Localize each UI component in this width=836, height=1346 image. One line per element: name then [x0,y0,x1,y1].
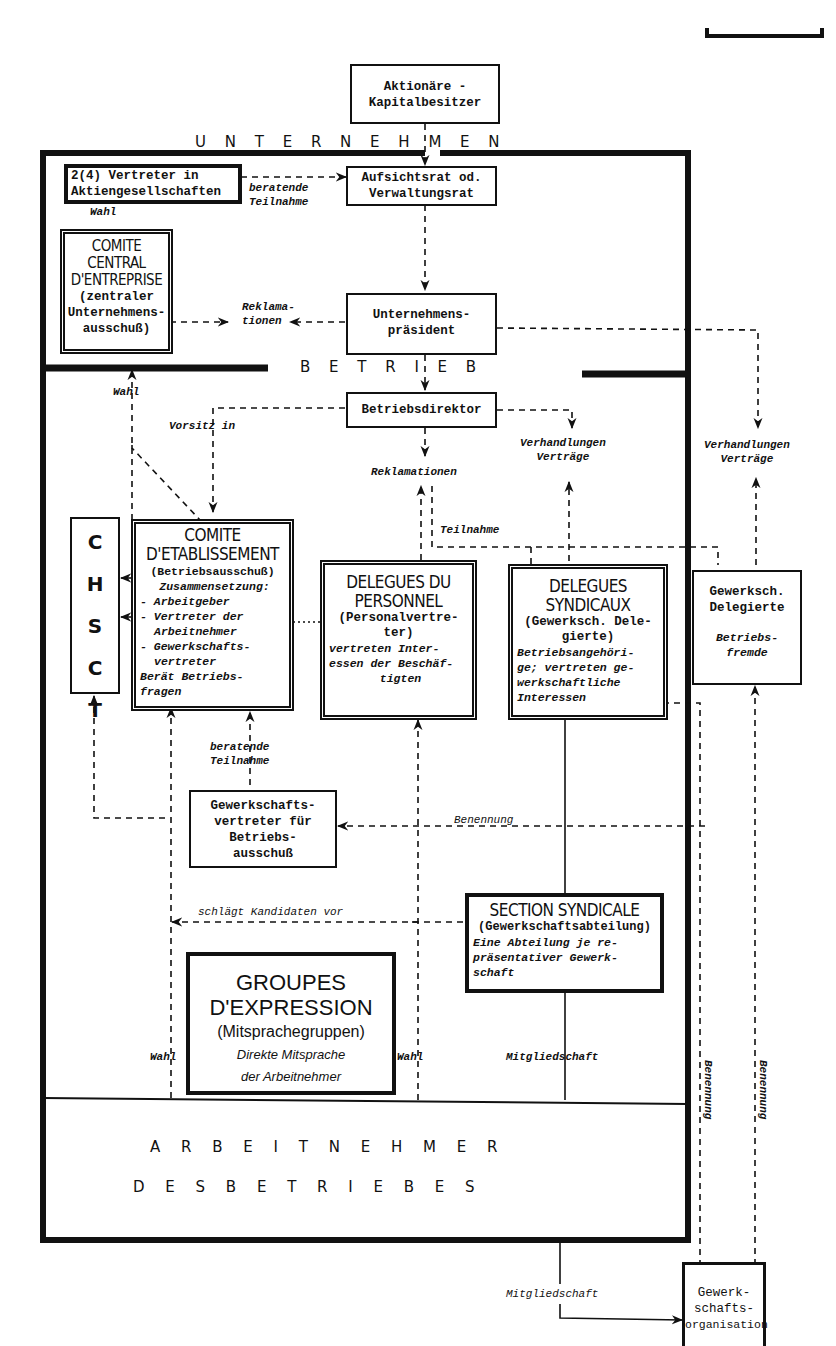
label-verhandlungen-right: Verhandlungen Verträge [704,438,790,466]
box-aufsichtsrat: Aufsichtsrat od. Verwaltungsrat [346,166,497,206]
label-verhandlungen-mid: Verhandlungen Verträge [520,436,606,464]
box-groupes-expression: GROUPES D'EXPRESSION (Mitsprachegruppen)… [186,952,396,1095]
label-teilnahme: Teilnahme [440,523,499,537]
arbeitnehmer-divider [43,1098,688,1104]
label-wahl-ge-left: Wahl [150,1050,176,1064]
box-delegues-syndicaux: DELEGUES SYNDICAUX (Gewerksch. Dele- gie… [508,564,668,720]
box-vertreter-ag: 2(4) Vertreter in Aktiengesellschaften [64,164,242,204]
label-mitgliedschaft-go: Mitgliedschaft [506,1287,598,1301]
label-schlaegt-kandidaten-vor: schlägt Kandidaten vor [198,905,343,919]
box-aktionaere: Aktionäre - Kapitalbesitzer [350,64,500,124]
label-beratende-teilnahme-bottom: beratende Teilnahme [210,740,269,768]
label-unternehmen: U N T E R N E H M E N [195,133,507,151]
label-betrieb: B E T R I E B [300,358,483,376]
box-betriebsdirektor: Betriebsdirektor [346,392,497,428]
corner-mark [707,28,822,36]
label-mitgliedschaft-ss: Mitgliedschaft [506,1050,598,1064]
box-section-syndicale: SECTION SYNDICALE (Gewerkschaftsabteilun… [465,893,664,993]
label-beratende-teilnahme-top: beratende Teilnahme [249,181,308,209]
label-benennung-vertical-2: Benennung [757,1060,769,1160]
box-delegues-personnel: DELEGUES DU PERSONNEL (Personalvertre- t… [320,560,477,720]
label-benennung-horizontal: Benennung [454,813,513,827]
box-gewerkschaftsvertreter-betriebsausschuss: Gewerkschafts- vertreter für Betriebs- a… [189,790,337,868]
label-des-betriebes: D E S B E T R I E B E S [133,1178,483,1196]
box-comite-central: COMITE CENTRAL D'ENTREPRISE (zentraler U… [60,229,173,354]
label-arbeitnehmer: A R B E I T N E H M E R [150,1138,505,1156]
box-gewerkschaftsorganisation: Gewerk- schafts- organisation [682,1262,766,1346]
label-wahl-ge-right: Wahl [397,1050,423,1064]
label-benennung-vertical-1: Benennung [702,1060,714,1160]
box-chsct: C H S C T [70,517,120,694]
label-reklamationen-top: Reklama- tionen [242,300,295,328]
label-wahl-left: Wahl [113,385,139,399]
label-vorsitz-in: Vorsitz in [169,419,235,433]
box-comite-etablissement: COMITE D'ETABLISSEMENT (Betriebsausschuß… [131,519,294,711]
box-praesident: Unternehmens- präsident [346,293,497,355]
box-gewerksch-delegierte: Gewerksch. Delegierte Betriebs- fremde [692,570,802,685]
label-wahl-top: Wahl [90,205,116,219]
label-reklamationen-mid: Reklamationen [371,465,457,479]
